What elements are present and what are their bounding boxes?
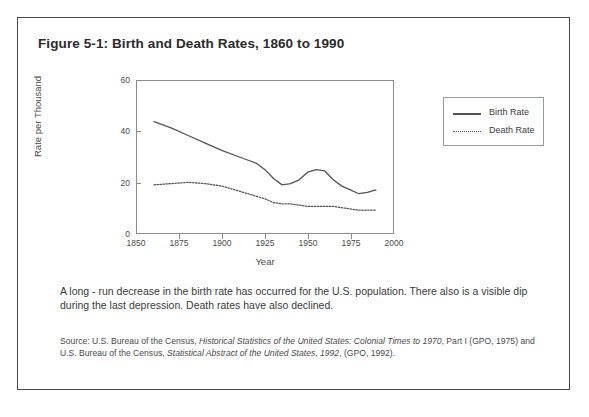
x-axis-tick-label: 2000 <box>377 238 411 248</box>
x-axis-tick-mark <box>308 234 309 239</box>
figure-card: Figure 5-1: Birth and Death Rates, 1860 … <box>17 17 570 390</box>
chart-legend: Birth Rate Death Rate <box>443 97 544 146</box>
source-line2-suffix: , (GPO, 1992). <box>339 348 395 358</box>
plot-frame <box>136 80 394 234</box>
y-axis-tick-label: 40 <box>108 126 130 136</box>
x-axis-tick-mark <box>222 234 223 239</box>
x-axis-tick-mark <box>265 234 266 239</box>
x-axis-title: Year <box>136 256 394 267</box>
source-line2-title: Statistical Abstract of the United State… <box>167 348 339 358</box>
x-axis-tick-label: 1875 <box>162 238 196 248</box>
y-axis-tick-mark <box>136 80 141 81</box>
source-line1-suffix: , Part I <box>442 336 467 346</box>
y-axis-tick-label: 20 <box>108 178 130 188</box>
chart-plot-area: Rate per Thousand 0204060 18501875190019… <box>38 66 551 281</box>
x-axis-tick-mark <box>351 234 352 239</box>
legend-swatch-solid-line-icon <box>453 113 481 115</box>
source-line1-prefix: Source: U.S. Bureau of the Census, <box>60 336 199 346</box>
y-axis-title: Rate per Thousand <box>32 76 43 157</box>
x-axis-tick-label: 1850 <box>119 238 153 248</box>
figure-source-note: Source: U.S. Bureau of the Census, Histo… <box>60 336 540 359</box>
x-axis-tick-label: 1975 <box>334 238 368 248</box>
x-axis-tick-label: 1900 <box>205 238 239 248</box>
legend-label-death-rate: Death Rate <box>489 125 535 135</box>
y-axis-tick-mark <box>136 183 141 184</box>
x-axis-tick-mark <box>179 234 180 239</box>
figure-title: Figure 5-1: Birth and Death Rates, 1860 … <box>38 36 344 51</box>
y-axis-tick-label: 60 <box>108 75 130 85</box>
figure-caption: A long - run decrease in the birth rate … <box>60 284 530 312</box>
x-axis-tick-label: 1925 <box>248 238 282 248</box>
series-canvas <box>137 81 393 233</box>
source-line1-title: Historical Statistics of the United Stat… <box>199 336 442 346</box>
legend-swatch-dotted-line-icon <box>453 131 481 132</box>
y-axis-tick-mark <box>136 131 141 132</box>
x-axis-tick-label: 1950 <box>291 238 325 248</box>
legend-label-birth-rate: Birth Rate <box>489 107 529 117</box>
